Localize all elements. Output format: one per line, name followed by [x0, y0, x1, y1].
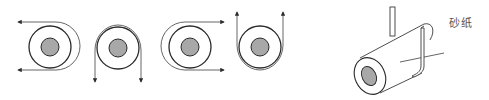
roller-1-wrap-right-arrows-left — [18, 22, 80, 70]
sandpaper-strip-back — [390, 7, 395, 36]
sandpaper-label: 砂纸 — [449, 14, 473, 30]
sanding-diagram — [0, 0, 489, 100]
cylinder-3d-with-sandpaper — [348, 7, 444, 100]
roller-4-wrap-bottom-arrows-up — [237, 12, 283, 70]
roller-2-wrap-top-arrows-down — [95, 25, 141, 82]
sandpaper-strip-front — [412, 28, 424, 77]
roller-3-wrap-left-arrows-right — [161, 22, 224, 70]
